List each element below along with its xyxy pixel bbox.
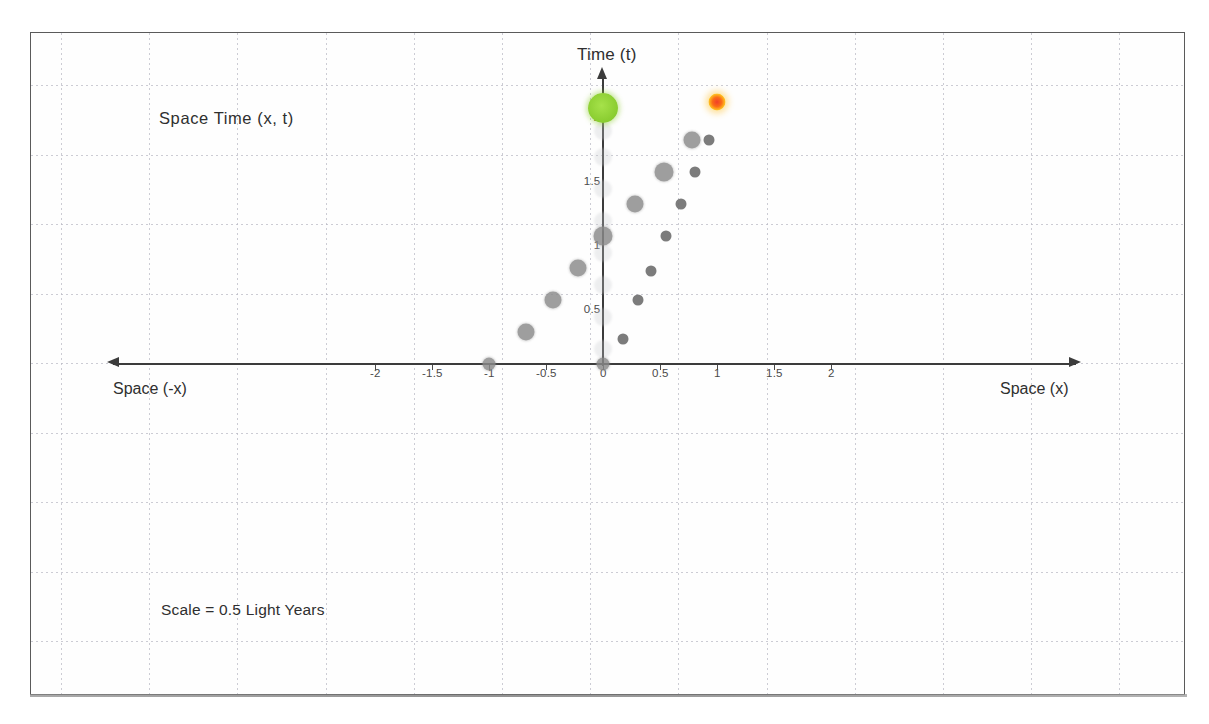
- spacetime-title-label: Space Time (x, t): [159, 109, 294, 128]
- event-dot: [483, 358, 496, 371]
- event-dot: [597, 358, 610, 371]
- event-dot: [594, 276, 612, 294]
- event-dot: [632, 295, 643, 306]
- event-dot: [675, 199, 686, 210]
- event-dot: [594, 227, 613, 246]
- event-dot: [684, 132, 701, 149]
- event-dot: [594, 340, 612, 358]
- space-axis-right-arrow-icon: [1069, 357, 1081, 367]
- event-dot: [627, 196, 644, 213]
- event-dot: [617, 333, 628, 344]
- event-dot: [545, 292, 562, 309]
- event-dot: [517, 324, 534, 341]
- event-dot: [594, 308, 612, 326]
- space-positive-axis-label: Space (x): [1000, 380, 1068, 398]
- time-axis-up-arrow-icon: [597, 67, 607, 79]
- x-axis-tick-label: 0.5: [652, 367, 669, 379]
- event-dot: [709, 93, 726, 110]
- space-axis-left-arrow-icon: [107, 357, 119, 367]
- event-dot: [661, 231, 672, 242]
- event-dot: [594, 244, 612, 262]
- event-dot: [689, 167, 700, 178]
- event-dot: [588, 93, 618, 123]
- scale-note-label: Scale = 0.5 Light Years: [161, 601, 325, 619]
- spacetime-diagram-page: -2-1.5-1-0.500.511.52 0.511.52 Space Tim…: [0, 0, 1209, 724]
- x-axis-tick-label: 2: [828, 367, 835, 379]
- time-axis-label: Time (t): [577, 45, 637, 65]
- event-dot: [704, 135, 715, 146]
- event-dot: [594, 148, 612, 166]
- event-dot: [646, 265, 657, 276]
- plot-area: -2-1.5-1-0.500.511.52 0.511.52: [31, 33, 1184, 694]
- x-axis-tick-label: -2: [370, 367, 381, 379]
- x-axis-tick-label: 1.5: [766, 367, 783, 379]
- space-axis-line: [113, 363, 1076, 365]
- diagram-frame: -2-1.5-1-0.500.511.52 0.511.52 Space Tim…: [30, 32, 1185, 695]
- event-dot: [570, 260, 587, 277]
- event-dot: [654, 163, 673, 182]
- space-negative-axis-label: Space (-x): [113, 380, 187, 398]
- x-axis-tick-label: -0.5: [536, 367, 557, 379]
- x-axis-tick-label: 1: [714, 367, 721, 379]
- x-axis-tick-label: -1.5: [422, 367, 443, 379]
- event-dot: [594, 122, 612, 140]
- event-dot: [594, 180, 612, 198]
